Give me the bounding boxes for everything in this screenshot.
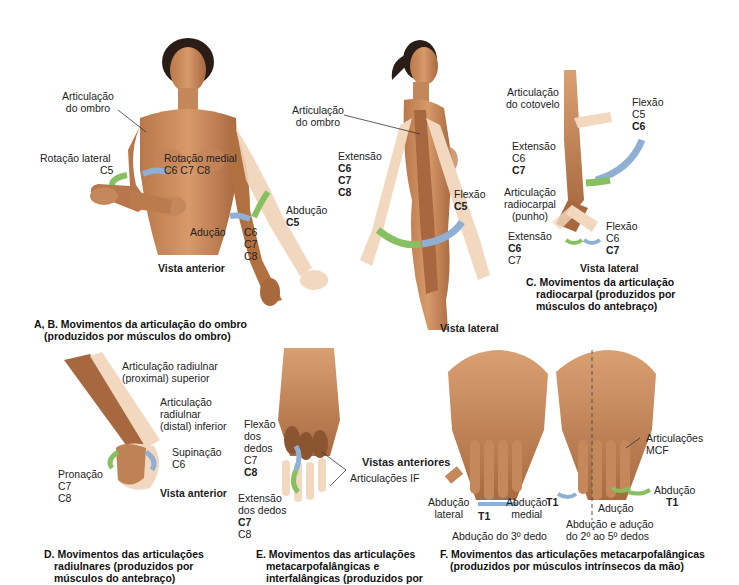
label-line: Supinação	[172, 446, 222, 458]
label-line: (punho)	[504, 210, 556, 222]
label-line: Abdução e adução	[566, 518, 654, 530]
label-shoulder-joint-lateral: Articulação do ombro	[292, 104, 344, 128]
label-line: C5	[286, 216, 327, 228]
label-adduction-f: Adução	[598, 502, 634, 514]
caption-e: E. Movimentos das articulações metacarpo…	[256, 548, 423, 584]
caption-line: F. Movimentos das articulações metacarpo…	[440, 548, 705, 560]
label-line: C6	[606, 232, 638, 244]
caption-line: A, B. Movimentos da articulação do ombro	[34, 318, 247, 330]
label-line: C7	[58, 480, 103, 492]
label-distal-radioulnar: Articulação radiulnar (distal) inferior	[160, 396, 227, 432]
label-supination: Supinação C6	[172, 446, 222, 470]
label-line: Flexão	[606, 220, 638, 232]
label-lateral-abduction: Abdução lateral	[428, 496, 469, 520]
label-adduction: Adução	[190, 226, 226, 238]
label-line: radiulnar	[160, 408, 227, 420]
label-if-joints: Articulações IF	[350, 472, 419, 484]
caption-line: radiocarpal (produzidos por	[526, 288, 675, 300]
label-pronation: Pronação C7 C8	[58, 468, 103, 504]
label-line: do ombro	[62, 102, 114, 114]
label-line: Flexão	[244, 418, 276, 430]
label-line: do 2º ao 5º dedos	[566, 530, 654, 542]
label-line: Abdução	[286, 204, 327, 216]
label-elbow-extension: Extensão C6 C7	[512, 140, 556, 176]
label-line: T1	[654, 496, 695, 508]
caption-line: (produzidos por músculos intrínsecos da …	[440, 560, 705, 572]
label-line: Rotação lateral	[40, 152, 113, 164]
label-line: C7	[606, 244, 638, 256]
caption-line: músculos do antebraço)	[526, 300, 675, 312]
label-line: Abdução	[506, 496, 547, 508]
label-line: C8	[338, 186, 382, 198]
label-line: C7	[244, 454, 276, 466]
label-abduction: Abdução C5	[286, 204, 327, 228]
label-line: C6	[632, 120, 664, 132]
label-line: MCF	[646, 444, 703, 456]
label-wrist-flexion: Flexão C6 C7	[606, 220, 638, 256]
label-line: Articulação	[504, 186, 556, 198]
label-lateral-view-b: Vista lateral	[440, 322, 499, 334]
label-elbow-flexion: Flexão C5 C6	[632, 96, 664, 132]
label-flexion-shoulder: Flexão C5	[454, 188, 486, 212]
caption-line: C. Movimentos da articulação	[526, 276, 675, 288]
label-line: Articulação	[292, 104, 344, 116]
label-line: Articulação radiulnar	[122, 360, 218, 372]
label-line: Articulação	[62, 90, 114, 102]
caption-f: F. Movimentos das articulações metacarpo…	[440, 548, 705, 572]
caption-line: E. Movimentos das articulações	[256, 548, 423, 560]
label-lateral-rotation: Rotação lateral C5	[40, 152, 113, 176]
label-line: C6 C7 C8	[164, 164, 237, 176]
caption-ab: A, B. Movimentos da articulação do ombro…	[34, 318, 247, 342]
label-line: C7	[512, 164, 556, 176]
label-line: C8	[244, 250, 257, 262]
label-line: radiocarpal	[504, 198, 556, 210]
label-line: Extensão	[508, 230, 552, 242]
label-adduction-nerves: C6 C7 C8	[244, 226, 257, 262]
label-proximal-radioulnar: Articulação radiulnar (proximal) superio…	[122, 360, 218, 384]
label-line: C8	[58, 492, 103, 504]
caption-d: D. Movimentos das articulações radiulnar…	[44, 548, 204, 584]
label-medial-rotation: Rotação medial C6 C7 C8	[164, 152, 237, 176]
label-line: Rotação medial	[164, 152, 237, 164]
label-line: (proximal) superior	[122, 372, 218, 384]
label-wrist-extension: Extensão C6 C7	[508, 230, 552, 266]
label-line: Extensão	[512, 140, 556, 152]
label-line: C7	[338, 174, 382, 186]
label-finger-extension: Extensão dos dedos C7 C8	[238, 492, 286, 540]
label-line: Flexão	[454, 188, 486, 200]
label-line: C7	[508, 254, 552, 266]
label-line: Articulação	[506, 86, 560, 98]
label-extension-shoulder: Extensão C6 C7 C8	[338, 150, 382, 198]
label-line: C5	[632, 108, 664, 120]
label-finger-flexion: Flexão dos dedos C7 C8	[244, 418, 276, 478]
label-shoulder-joint-anterior: Articulação do ombro	[62, 90, 114, 114]
label-line: lateral	[428, 508, 469, 520]
label-mcp-joints: Articulações MCF	[646, 432, 703, 456]
caption-line: músculos do antebraço)	[44, 572, 204, 584]
caption-c: C. Movimentos da articulação radiocarpal…	[526, 276, 675, 312]
label-line: C8	[244, 466, 276, 478]
label-elbow-joint: Articulação do cotovelo	[506, 86, 560, 110]
label-line: C8	[238, 528, 286, 540]
label-anterior-view: Vista anterior	[158, 262, 225, 274]
caption-line: radiulnares (produzidos por	[44, 560, 204, 572]
label-line: C5	[454, 200, 486, 212]
figure-hand-flexion	[278, 348, 346, 502]
label-radiocarpal-joint: Articulação radiocarpal (punho)	[504, 186, 556, 222]
label-t1-left: T1	[478, 510, 490, 522]
label-anterior-view-d: Vista anterior	[160, 487, 227, 499]
label-line: dos dedos	[238, 504, 286, 516]
label-line: C6	[244, 226, 257, 238]
label-medial-abduction: Abdução medial	[506, 496, 547, 520]
label-abduction-adduction-2-5: Abdução e adução do 2º ao 5º dedos	[566, 518, 654, 542]
figure-hands-abduction	[448, 350, 656, 520]
label-line: Abdução	[654, 484, 695, 496]
label-line: dedos	[244, 442, 276, 454]
figure-arm-lateral	[552, 70, 642, 243]
label-line: C6	[338, 162, 382, 174]
label-anterior-views: Vistas anteriores	[362, 456, 450, 468]
label-line: Extensão	[238, 492, 286, 504]
label-line: C5	[40, 164, 113, 176]
label-line: (distal) inferior	[160, 420, 227, 432]
caption-line: D. Movimentos das articulações	[44, 548, 204, 560]
